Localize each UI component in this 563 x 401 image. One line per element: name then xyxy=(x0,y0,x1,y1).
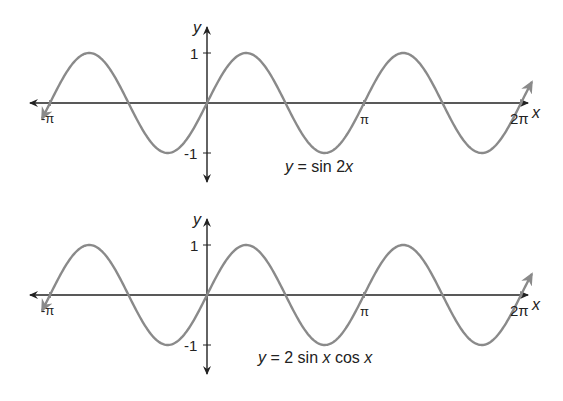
x-tick-label: π xyxy=(360,304,369,319)
y-tick-label: -1 xyxy=(184,145,197,162)
x-axis-label: x xyxy=(531,104,541,121)
graph-sin-2x: y x 1 -1 -π π 2π y = sin 2x xyxy=(30,19,541,182)
y-axis-label: y xyxy=(192,211,202,228)
x-axis-label: x xyxy=(531,296,541,313)
chart-canvas: y x 1 -1 -π π 2π y = sin 2x y x 1 -1 -π … xyxy=(0,0,563,401)
y-tick-label: 1 xyxy=(190,237,198,254)
x-tick-label: -π xyxy=(41,303,54,318)
y-tick-label: 1 xyxy=(190,45,198,62)
x-tick-label: -π xyxy=(41,111,54,126)
x-tick-label: 2π xyxy=(510,302,529,319)
graph-2-sin-x-cos-x: y x 1 -1 -π π 2π y = 2 sin x cos x xyxy=(30,211,541,374)
y-tick-label: -1 xyxy=(184,337,197,354)
x-tick-label: 2π xyxy=(510,110,529,127)
y-axis-label: y xyxy=(192,19,202,36)
x-tick-label: π xyxy=(360,112,369,127)
equation-label: y = sin 2x xyxy=(284,158,354,175)
equation-label: y = 2 sin x cos x xyxy=(257,349,373,366)
